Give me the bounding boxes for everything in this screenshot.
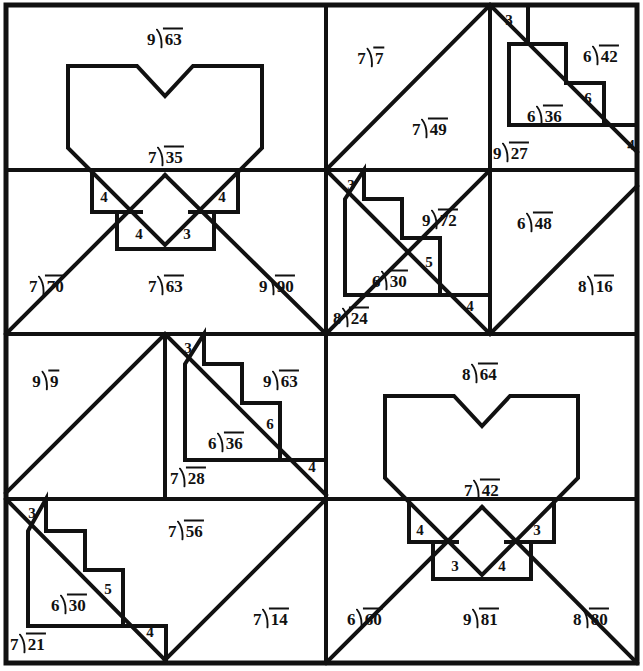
division-problem: 880 (573, 608, 609, 629)
division-problem: 721 (10, 633, 46, 654)
division-problem: 763 (148, 275, 184, 296)
divisor: 8 (578, 278, 587, 295)
dividend: 9 (48, 370, 60, 390)
digit-value: 3 (28, 505, 36, 521)
divisor: 7 (357, 50, 366, 67)
division-problem: 99 (32, 370, 59, 391)
dividend: 56 (184, 520, 204, 540)
digit-value: 3 (183, 226, 191, 242)
division-bracket-icon (471, 364, 478, 384)
division-bracket-icon (431, 210, 438, 230)
division-bracket-icon (582, 609, 589, 629)
quotient-digit: 5 (425, 254, 433, 270)
digit-value: 5 (425, 254, 433, 270)
digit-value: 6 (266, 416, 274, 432)
dividend: 7 (373, 47, 385, 67)
worksheet-page: 9637357707639904443777496426369273649726… (0, 0, 643, 671)
division-problem: 927 (493, 142, 529, 163)
division-bracket-icon (272, 371, 279, 391)
divisor: 7 (29, 278, 38, 295)
dividend: 30 (67, 594, 87, 614)
divisor: 9 (422, 212, 431, 229)
divisor: 9 (32, 373, 41, 390)
division-bracket-icon (342, 308, 349, 328)
digit-value: 3 (505, 12, 513, 28)
dividend: 14 (269, 608, 289, 628)
dividend: 63 (279, 370, 299, 390)
dividend: 63 (164, 275, 184, 295)
divisor: 7 (253, 611, 262, 628)
dividend: 64 (478, 363, 498, 383)
divisor: 8 (462, 366, 471, 383)
quotient-digit: 3 (451, 558, 459, 574)
divisor: 6 (347, 611, 356, 628)
divisor: 7 (464, 482, 473, 499)
division-bracket-icon (536, 106, 543, 126)
division-problem: 770 (29, 275, 65, 296)
digit-value: 3 (451, 558, 459, 574)
division-bracket-icon (177, 521, 184, 541)
division-problem: 963 (263, 370, 299, 391)
diagonal-tr-upleft (326, 5, 490, 170)
division-problem: 630 (51, 594, 87, 615)
vee-right-top-left (165, 175, 326, 334)
dividend: 80 (589, 608, 609, 628)
quilt-diagram (0, 0, 643, 671)
division-problem: 714 (253, 608, 289, 629)
division-problem: 963 (147, 28, 183, 49)
divisor: 9 (493, 145, 502, 162)
division-problem: 990 (259, 275, 295, 296)
division-bracket-icon (472, 609, 479, 629)
digit-value: 4 (218, 189, 226, 205)
quotient-digit: 5 (104, 581, 112, 597)
digit-value: 3 (184, 340, 192, 356)
division-problem: 824 (333, 307, 369, 328)
quotient-digit: 3 (183, 226, 191, 242)
divisor: 7 (168, 523, 177, 540)
step-box-right-bottom-right (506, 499, 554, 542)
quotient-digit: 6 (584, 90, 592, 106)
dividend: 27 (509, 142, 529, 162)
dividend: 81 (479, 608, 499, 628)
dividend: 16 (594, 275, 614, 295)
division-problem: 972 (422, 209, 458, 230)
divisor: 7 (412, 121, 421, 138)
division-problem: 660 (347, 608, 383, 629)
division-bracket-icon (356, 609, 363, 629)
digit-value: 4 (466, 298, 474, 314)
vee-left-top-left (6, 175, 165, 334)
quotient-digit: 4 (100, 189, 108, 205)
divisor: 6 (372, 273, 381, 290)
dividend: 49 (428, 118, 448, 138)
division-bracket-icon (366, 48, 373, 68)
dividend: 72 (438, 209, 458, 229)
dividend: 90 (275, 275, 295, 295)
divisor: 9 (259, 278, 268, 295)
quotient-digit: 4 (416, 522, 424, 538)
digit-value: 6 (584, 90, 592, 106)
division-problem: 648 (517, 212, 553, 233)
divisor: 6 (527, 108, 536, 125)
divisor: 8 (333, 310, 342, 327)
divisor: 9 (463, 611, 472, 628)
dividend: 36 (543, 105, 563, 125)
divisor: 6 (517, 215, 526, 232)
vee-left-bottom-right (326, 507, 482, 663)
dividend: 21 (26, 633, 46, 653)
division-problem: 728 (170, 467, 206, 488)
digit-value: 4 (416, 522, 424, 538)
dividend: 48 (533, 212, 553, 232)
division-problem: 756 (168, 520, 204, 541)
division-bracket-icon (60, 595, 67, 615)
divisor: 6 (208, 435, 217, 452)
quotient-digit: 4 (498, 558, 506, 574)
digit-value: 5 (104, 581, 112, 597)
division-bracket-icon (502, 143, 509, 163)
division-bracket-icon (179, 468, 186, 488)
division-problem: 864 (462, 363, 498, 384)
digit-value: 4 (100, 189, 108, 205)
division-problem: 642 (583, 45, 619, 66)
divisor: 7 (148, 278, 157, 295)
division-problem: 749 (412, 118, 448, 139)
dividend: 28 (186, 467, 206, 487)
